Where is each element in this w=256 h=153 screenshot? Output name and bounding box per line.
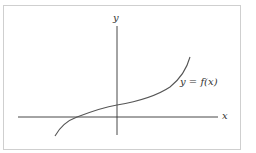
curve-label: y = f(x): [180, 77, 218, 87]
function-curve: [55, 57, 190, 136]
y-axis-label: y: [113, 13, 119, 23]
x-axis-label: x: [222, 111, 228, 121]
